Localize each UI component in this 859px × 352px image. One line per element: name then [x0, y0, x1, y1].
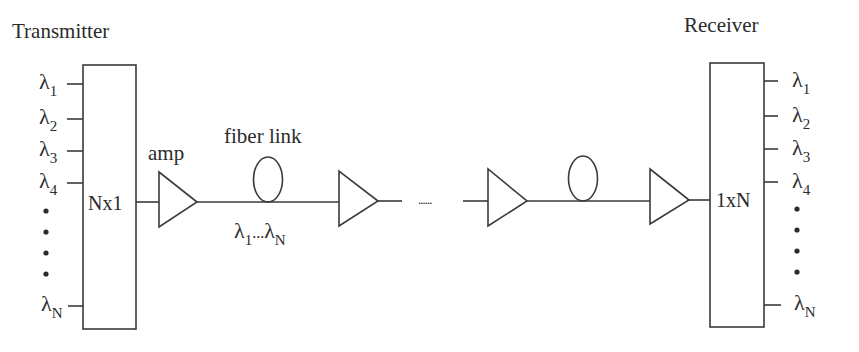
channel-range-label: λ1...λN — [234, 218, 286, 248]
transmitter-inputs: λ1 λ2 λ3 λ4 λN — [39, 69, 83, 321]
output-lambda-4: λ4 — [792, 168, 811, 198]
output-lambda-1: λ1 — [792, 67, 810, 97]
ellipsis-dot — [794, 248, 799, 253]
ellipsis-dot — [794, 206, 799, 211]
amplifier-1-icon — [159, 172, 197, 227]
input-lambda-3: λ3 — [39, 136, 57, 166]
input-lambda-n: λN — [41, 291, 63, 321]
amp-label: amp — [148, 141, 184, 165]
output-lambda-3: λ3 — [792, 135, 810, 165]
ellipsis-dot — [43, 271, 48, 276]
ellipsis-dot — [794, 269, 799, 274]
demux-label: 1xN — [716, 189, 750, 211]
amplifier-4-icon — [650, 169, 689, 224]
output-lambda-n: λN — [794, 290, 816, 320]
input-lambda-2: λ2 — [39, 104, 57, 134]
ellipsis-dot — [43, 208, 48, 213]
ellipsis-dot — [794, 227, 799, 232]
amplifier-2-icon — [339, 171, 378, 226]
ellipsis-dot — [43, 250, 48, 255]
input-lambda-4: λ4 — [39, 168, 58, 198]
amplifier-3-icon — [488, 169, 527, 226]
ellipsis-dot — [43, 229, 48, 234]
fiber-spool-2-icon — [569, 156, 598, 201]
continuation-dots: ...... — [418, 192, 432, 207]
input-lambda-1: λ1 — [39, 69, 57, 99]
transmitter-title: Transmitter — [12, 19, 109, 43]
receiver-title: Receiver — [684, 13, 759, 37]
fiber-link-label: fiber link — [224, 124, 302, 148]
receiver-outputs: λ1 λ2 λ3 λ4 λN — [764, 67, 816, 320]
fiber-spool-1-icon — [254, 157, 283, 202]
output-lambda-2: λ2 — [792, 102, 810, 132]
mux-label: Nx1 — [88, 192, 122, 214]
wdm-link-diagram: Transmitter Nx1 λ1 λ2 λ3 λ4 λN amp fiber… — [0, 0, 859, 352]
